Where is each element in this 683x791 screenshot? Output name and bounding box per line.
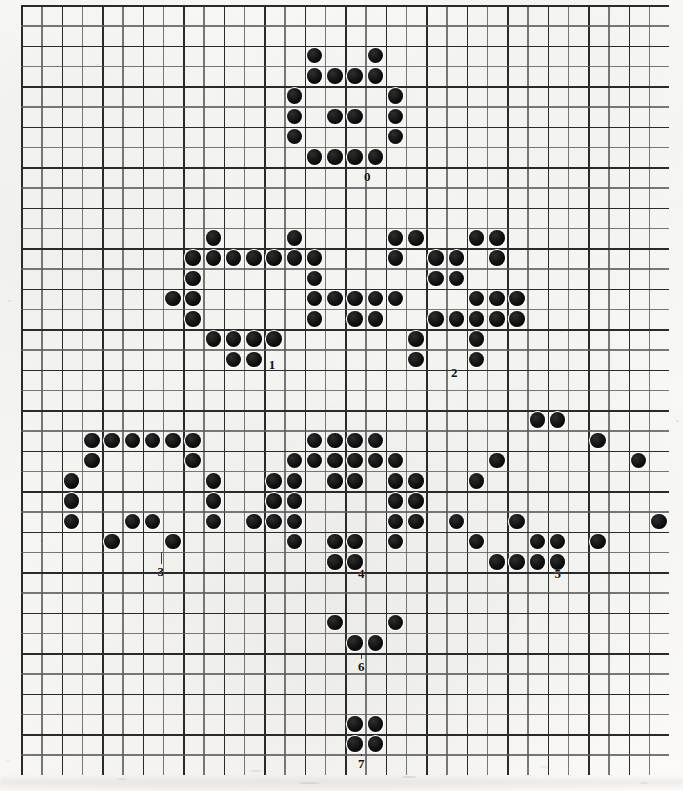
dot-cell-4-13-25 bbox=[287, 514, 303, 530]
paper-speck bbox=[560, 330, 565, 332]
grid-line-horizontal bbox=[21, 5, 669, 7]
dot-cell-4-19-24 bbox=[408, 493, 424, 509]
grid-line-horizontal bbox=[21, 552, 669, 554]
dot-cell-0-14-7 bbox=[307, 149, 323, 165]
digit-label-7: 7 bbox=[358, 757, 365, 770]
dot-cell-2-21-12 bbox=[449, 250, 465, 266]
grid-line-horizontal bbox=[21, 694, 669, 696]
grid-line-horizontal bbox=[21, 147, 669, 149]
dot-cell-2-24-14 bbox=[509, 291, 525, 307]
dot-cell-1-9-11 bbox=[206, 230, 222, 246]
dot-cell-0-13-5 bbox=[287, 109, 303, 125]
dot-cell-1-10-16 bbox=[226, 331, 242, 347]
bottom-smudge bbox=[0, 775, 683, 791]
grid-line-horizontal bbox=[21, 714, 669, 716]
dot-cell-0-14-3 bbox=[307, 68, 323, 84]
grid-line-horizontal bbox=[21, 25, 669, 27]
dot-cell-3-9-23 bbox=[206, 473, 222, 489]
dot-cell-1-11-17 bbox=[246, 352, 262, 368]
dot-cell-3-8-22 bbox=[185, 453, 201, 469]
dot-cell-4-18-24 bbox=[388, 493, 404, 509]
dot-cell-5-26-20 bbox=[550, 412, 566, 428]
dot-cell-1-10-12 bbox=[226, 250, 242, 266]
dot-cell-3-3-21 bbox=[84, 433, 100, 449]
dot-cell-7-16-35 bbox=[347, 716, 363, 732]
dot-cell-1-12-16 bbox=[266, 331, 282, 347]
grid-line-horizontal bbox=[21, 613, 669, 615]
dot-cell-0-17-3 bbox=[368, 68, 384, 84]
dot-cell-3-7-21 bbox=[165, 433, 181, 449]
digit-label-3: 3 bbox=[157, 565, 164, 578]
paper-speck bbox=[5, 760, 11, 762]
dot-cell-4-11-25 bbox=[246, 514, 262, 530]
dot-cell-7-17-35 bbox=[368, 716, 384, 732]
dot-cell-6-15-30 bbox=[327, 615, 343, 631]
dot-cell-2-23-15 bbox=[489, 311, 505, 327]
grid-line-horizontal bbox=[21, 248, 669, 250]
dot-cell-1-15-14 bbox=[327, 291, 343, 307]
dot-cell-5-23-22 bbox=[489, 453, 505, 469]
paper-speck bbox=[250, 770, 262, 772]
dot-cell-3-9-24 bbox=[206, 493, 222, 509]
dot-cell-1-9-12 bbox=[206, 250, 222, 266]
dot-cell-6-16-31 bbox=[347, 635, 363, 651]
dot-cell-4-12-24 bbox=[266, 493, 282, 509]
grid-line-horizontal bbox=[21, 66, 669, 68]
digit-label-2: 2 bbox=[451, 366, 458, 379]
paper-speck bbox=[8, 300, 11, 302]
grid-line-horizontal bbox=[21, 653, 669, 655]
dot-cell-0-18-4 bbox=[388, 88, 404, 104]
grid-line-horizontal bbox=[21, 572, 669, 574]
dot-cell-5-22-23 bbox=[469, 473, 485, 489]
paper-speck bbox=[600, 610, 604, 612]
grid-line-horizontal bbox=[21, 106, 669, 108]
dot-cell-1-11-16 bbox=[246, 331, 262, 347]
grid-line-horizontal bbox=[21, 208, 669, 210]
grid-line-horizontal bbox=[21, 187, 669, 189]
dot-cell-1-9-16 bbox=[206, 331, 222, 347]
dot-cell-3-2-24 bbox=[64, 493, 80, 509]
dot-cell-3-7-26 bbox=[165, 534, 181, 550]
dot-cell-4-16-22 bbox=[347, 453, 363, 469]
grid-line-horizontal bbox=[21, 633, 669, 635]
dot-cell-2-24-15 bbox=[509, 311, 525, 327]
dot-cell-7-16-36 bbox=[347, 736, 363, 752]
grid-line-horizontal bbox=[21, 289, 669, 291]
dot-cell-4-15-27 bbox=[327, 554, 343, 570]
dot-cell-4-17-21 bbox=[368, 433, 384, 449]
dot-cell-2-22-16 bbox=[469, 331, 485, 347]
dot-cell-2-20-15 bbox=[428, 311, 444, 327]
dot-cell-2-18-12 bbox=[388, 250, 404, 266]
dot-cell-0-16-7 bbox=[347, 149, 363, 165]
dot-cell-5-23-27 bbox=[489, 554, 505, 570]
paper-speck bbox=[540, 766, 550, 768]
dot-cell-2-22-11 bbox=[469, 230, 485, 246]
dot-cell-3-5-25 bbox=[125, 514, 141, 530]
dot-cell-2-16-15 bbox=[347, 311, 363, 327]
dot-cell-1-12-12 bbox=[266, 250, 282, 266]
dot-cell-4-16-21 bbox=[347, 433, 363, 449]
grid-line-horizontal bbox=[21, 451, 669, 453]
dot-cell-4-12-25 bbox=[266, 514, 282, 530]
dot-cell-3-4-21 bbox=[104, 433, 120, 449]
dot-cell-2-17-15 bbox=[368, 311, 384, 327]
dot-cell-0-16-5 bbox=[347, 109, 363, 125]
dot-cell-5-21-25 bbox=[449, 514, 465, 530]
digit-leader-7 bbox=[361, 754, 362, 756]
dot-cell-2-20-12 bbox=[428, 250, 444, 266]
dot-cell-5-31-25 bbox=[651, 514, 667, 530]
dot-cell-4-13-23 bbox=[287, 473, 303, 489]
dot-cell-2-23-11 bbox=[489, 230, 505, 246]
dot-cell-0-17-7 bbox=[368, 149, 384, 165]
dot-cell-3-2-23 bbox=[64, 473, 80, 489]
dot-cell-4-15-21 bbox=[327, 433, 343, 449]
dot-cell-2-19-16 bbox=[408, 331, 424, 347]
grid-line-horizontal bbox=[21, 309, 669, 311]
grid-line-horizontal bbox=[21, 390, 669, 392]
dot-cell-5-28-21 bbox=[590, 433, 606, 449]
dot-cell-4-15-22 bbox=[327, 453, 343, 469]
grid-line-horizontal bbox=[21, 491, 669, 493]
dot-cell-1-13-11 bbox=[287, 230, 303, 246]
digit-label-4: 4 bbox=[358, 567, 365, 580]
dot-cell-1-8-15 bbox=[185, 311, 201, 327]
